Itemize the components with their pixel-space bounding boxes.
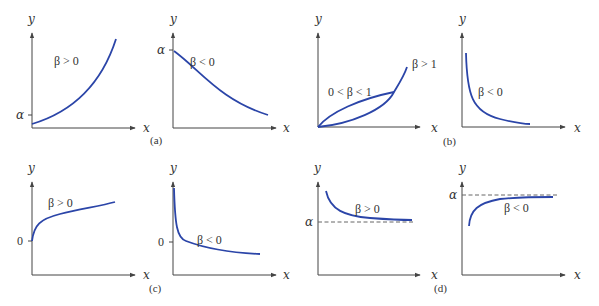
curve-label: β < 0 (478, 85, 503, 99)
x-axis-label: x (143, 268, 150, 282)
plot-a-left: y x α β > 0 (16, 12, 150, 135)
caption-a: (a) (150, 134, 163, 147)
y-axis-label: y (458, 161, 466, 175)
plot-c-left: y x 0 β > 0 (17, 161, 150, 282)
alpha-label: α (449, 188, 457, 202)
y-axis-label: y (458, 12, 466, 26)
function-shapes-diagram: y x α β > 0 y x α β < 0 (a) y x (0, 0, 599, 306)
curve-label: β < 0 (190, 55, 215, 69)
curve-beta-positive (32, 39, 116, 124)
curve-label: β < 0 (197, 233, 222, 247)
zero-tick-label: 0 (17, 234, 23, 248)
panel-b: y x 0 < β < 1 β > 1 y x β < 0 (b) (314, 12, 581, 148)
plot-d-right: y x α β < 0 (449, 161, 581, 282)
x-axis-label: x (574, 268, 581, 282)
curve-label-0-beta-1: 0 < β < 1 (328, 85, 372, 99)
x-axis-label: x (574, 121, 581, 135)
x-axis-label: x (283, 121, 290, 135)
zero-tick-label: 0 (158, 235, 164, 249)
curve-label: β > 0 (355, 202, 380, 216)
plot-b-right: y x β < 0 (458, 12, 581, 135)
curve-label: β > 0 (48, 196, 73, 210)
panel-d: y x α β > 0 y x α β < 0 (d) (305, 161, 581, 295)
x-axis-label: x (283, 268, 290, 282)
y-axis-label: y (27, 12, 35, 26)
y-axis-label: y (313, 161, 321, 175)
curve-beta-positive (32, 202, 115, 241)
y-axis-label: y (169, 161, 177, 175)
curve-beta-negative (174, 51, 268, 115)
curve-label-beta-gt-1: β > 1 (412, 57, 437, 71)
plot-d-left: y x α β > 0 (305, 161, 438, 282)
caption-d: (d) (434, 282, 447, 295)
alpha-tick-label: α (157, 43, 165, 57)
curve-label: β < 0 (504, 201, 529, 215)
plot-b-left: y x 0 < β < 1 β > 1 (314, 12, 438, 135)
plot-c-right: y x 0 β < 0 (158, 161, 290, 282)
y-axis-label: y (314, 12, 322, 26)
x-axis-label: x (431, 268, 438, 282)
plot-a-right: y x α β < 0 (157, 12, 290, 135)
alpha-label: α (305, 215, 313, 229)
x-axis-label: x (431, 121, 438, 135)
y-axis-label: y (169, 12, 177, 26)
y-axis-label: y (27, 161, 35, 175)
caption-c: (c) (149, 282, 162, 295)
panel-a: y x α β > 0 y x α β < 0 (a) (16, 12, 290, 147)
panel-c: y x 0 β > 0 y x 0 β < 0 (c) (17, 161, 290, 295)
curve-label: β > 0 (54, 54, 79, 68)
alpha-tick-label: α (16, 108, 24, 122)
x-axis-label: x (143, 121, 150, 135)
caption-b: (b) (443, 135, 456, 148)
